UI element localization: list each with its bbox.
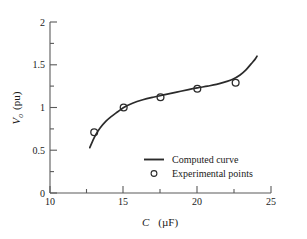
y-tick-label-1: 0.5 xyxy=(33,145,46,156)
legend-circle-swatch xyxy=(151,171,157,177)
chart-figure: 10 15 20 25 0 0.5 1 1.5 2 Vo(pu) C(µF) xyxy=(0,0,307,239)
x-tick-label-2: 20 xyxy=(192,196,202,207)
svg-text:C(µF): C(µF) xyxy=(142,216,178,229)
legend-label-experimental-points: Experimental points xyxy=(172,168,253,179)
x-axis-title: C(µF) xyxy=(142,216,178,229)
x-axis-title-unit: (µF) xyxy=(158,216,178,229)
chart-legend: Computed curve Experimental points xyxy=(144,154,253,179)
series-experimental-points xyxy=(91,79,239,135)
y-axis-title-unit: (pu) xyxy=(10,91,23,110)
chart-plot-area: 10 15 20 25 0 0.5 1 1.5 2 Vo(pu) C(µF) xyxy=(0,0,307,239)
y-tick-label-2: 1 xyxy=(40,102,45,113)
y-axis-title: Vo(pu) xyxy=(10,91,25,124)
x-axis-title-symbol: C xyxy=(142,216,150,228)
x-tick-label-3: 25 xyxy=(266,196,276,207)
legend-label-computed-curve: Computed curve xyxy=(172,154,239,165)
x-axis-ticks xyxy=(50,186,271,193)
y-axis-ticks xyxy=(50,22,57,193)
svg-text:Vo(pu): Vo(pu) xyxy=(10,91,25,124)
series-computed-curve xyxy=(90,56,257,147)
y-tick-label-4: 2 xyxy=(40,17,45,28)
x-tick-label-0: 10 xyxy=(45,196,55,207)
y-tick-label-3: 1.5 xyxy=(33,59,46,70)
x-tick-label-1: 15 xyxy=(118,196,128,207)
data-point-marker xyxy=(232,79,239,86)
y-tick-label-0: 0 xyxy=(40,188,45,199)
y-axis-title-subscript: o xyxy=(16,114,25,118)
